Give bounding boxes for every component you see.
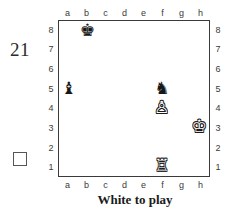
- square-g1[interactable]: [171, 156, 190, 175]
- file-label-b: b: [77, 6, 96, 20]
- square-b8[interactable]: ♚: [78, 22, 97, 41]
- square-e2[interactable]: [134, 137, 153, 156]
- black-bishop-icon: ♝: [61, 80, 76, 97]
- square-g3[interactable]: [171, 118, 190, 137]
- square-d8[interactable]: [115, 22, 134, 41]
- square-g6[interactable]: [171, 60, 190, 79]
- square-a2[interactable]: [60, 137, 79, 156]
- file-label-f: f: [153, 178, 172, 192]
- square-c1[interactable]: [97, 156, 116, 175]
- square-c5[interactable]: [97, 79, 116, 98]
- square-a3[interactable]: [60, 118, 79, 137]
- file-label-a: a: [58, 178, 77, 192]
- file-labels-bottom: abcdefgh: [58, 178, 210, 192]
- problem-number: 21: [10, 40, 50, 59]
- rank-label-4: 4: [212, 99, 224, 119]
- square-g2[interactable]: [171, 137, 190, 156]
- square-d1[interactable]: [115, 156, 134, 175]
- square-c3[interactable]: [97, 118, 116, 137]
- rank-label-3: 3: [45, 118, 57, 138]
- file-labels-top: abcdefgh: [58, 6, 210, 20]
- square-f7[interactable]: [153, 41, 172, 60]
- square-h7[interactable]: [190, 41, 209, 60]
- square-e6[interactable]: [134, 60, 153, 79]
- square-e1[interactable]: [134, 156, 153, 175]
- rank-label-7: 7: [212, 40, 224, 60]
- square-g7[interactable]: [171, 41, 190, 60]
- square-g5[interactable]: [171, 79, 190, 98]
- square-f5[interactable]: ♞: [153, 79, 172, 98]
- side-to-move-caption: White to play: [40, 192, 230, 208]
- square-a6[interactable]: [60, 60, 79, 79]
- square-e7[interactable]: [134, 41, 153, 60]
- rank-label-5: 5: [45, 79, 57, 99]
- square-b7[interactable]: [78, 41, 97, 60]
- square-f2[interactable]: [153, 137, 172, 156]
- square-c7[interactable]: [97, 41, 116, 60]
- square-g8[interactable]: [171, 22, 190, 41]
- rank-label-2: 2: [212, 138, 224, 158]
- square-d2[interactable]: [115, 137, 134, 156]
- square-d3[interactable]: [115, 118, 134, 137]
- square-c8[interactable]: [97, 22, 116, 41]
- rank-label-5: 5: [212, 79, 224, 99]
- file-label-g: g: [172, 6, 191, 20]
- square-b3[interactable]: [78, 118, 97, 137]
- square-h8[interactable]: [190, 22, 209, 41]
- file-label-b: b: [77, 178, 96, 192]
- square-e4[interactable]: [134, 99, 153, 118]
- square-a1[interactable]: [60, 156, 79, 175]
- square-h3[interactable]: ♔: [190, 118, 209, 137]
- square-b1[interactable]: [78, 156, 97, 175]
- white-king-icon: ♔: [192, 119, 207, 136]
- square-c4[interactable]: [97, 99, 116, 118]
- square-e8[interactable]: [134, 22, 153, 41]
- file-label-f: f: [153, 6, 172, 20]
- square-b2[interactable]: [78, 137, 97, 156]
- square-c6[interactable]: [97, 60, 116, 79]
- chessboard[interactable]: ♚♝♞♙♔♖: [58, 20, 210, 177]
- square-d7[interactable]: [115, 41, 134, 60]
- file-label-c: c: [96, 178, 115, 192]
- square-f4[interactable]: ♙: [153, 99, 172, 118]
- file-label-e: e: [134, 6, 153, 20]
- square-e3[interactable]: [134, 118, 153, 137]
- square-a7[interactable]: [60, 41, 79, 60]
- square-g4[interactable]: [171, 99, 190, 118]
- white-pawn-icon: ♙: [154, 99, 169, 116]
- square-f8[interactable]: [153, 22, 172, 41]
- square-a8[interactable]: [60, 22, 79, 41]
- file-label-a: a: [58, 6, 77, 20]
- rank-label-7: 7: [45, 40, 57, 60]
- square-f1[interactable]: ♖: [153, 156, 172, 175]
- square-f6[interactable]: [153, 60, 172, 79]
- rank-label-8: 8: [212, 20, 224, 40]
- square-c2[interactable]: [97, 137, 116, 156]
- square-d5[interactable]: [115, 79, 134, 98]
- square-a4[interactable]: [60, 99, 79, 118]
- square-b4[interactable]: [78, 99, 97, 118]
- square-d6[interactable]: [115, 60, 134, 79]
- rank-label-1: 1: [45, 157, 57, 177]
- square-h5[interactable]: [190, 79, 209, 98]
- square-h1[interactable]: [190, 156, 209, 175]
- black-knight-icon: ♞: [154, 80, 169, 97]
- square-e5[interactable]: [134, 79, 153, 98]
- answer-checkbox[interactable]: [13, 152, 27, 166]
- square-b5[interactable]: [78, 79, 97, 98]
- rank-label-6: 6: [45, 59, 57, 79]
- file-label-h: h: [191, 178, 210, 192]
- square-f3[interactable]: [153, 118, 172, 137]
- square-h6[interactable]: [190, 60, 209, 79]
- file-label-e: e: [134, 178, 153, 192]
- white-rook-icon: ♖: [154, 157, 169, 174]
- square-d4[interactable]: [115, 99, 134, 118]
- rank-label-1: 1: [212, 157, 224, 177]
- rank-label-4: 4: [45, 99, 57, 119]
- square-b6[interactable]: [78, 60, 97, 79]
- square-h2[interactable]: [190, 137, 209, 156]
- rank-labels-right: 87654321: [212, 20, 224, 177]
- file-label-d: d: [115, 6, 134, 20]
- square-a5[interactable]: ♝: [60, 79, 79, 98]
- square-h4[interactable]: [190, 99, 209, 118]
